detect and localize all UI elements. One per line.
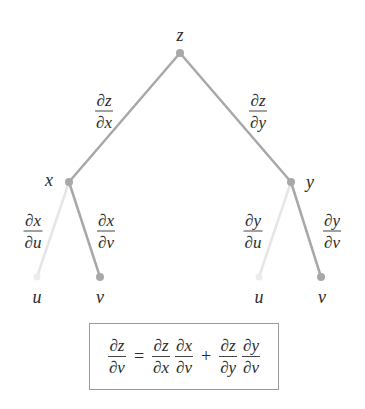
branch-z-x xyxy=(69,53,180,182)
branches xyxy=(37,53,321,277)
label-u-left: u xyxy=(33,288,42,306)
nodes xyxy=(34,49,326,281)
formula-lhs: ∂z∂v xyxy=(108,336,126,377)
label-z: z xyxy=(176,26,183,44)
equals-sign: = xyxy=(131,346,147,367)
formula-term1-a: ∂z∂x xyxy=(152,336,170,377)
edge-label-dx-dv: ∂x∂v xyxy=(97,211,115,252)
branch-z-y xyxy=(180,53,291,182)
edge-label-dy-dv: ∂y∂v xyxy=(323,211,341,252)
plus-sign: + xyxy=(198,346,214,367)
label-u-right: u xyxy=(255,288,264,306)
label-x: x xyxy=(45,171,53,189)
node-y xyxy=(287,178,295,186)
node-v-right xyxy=(317,273,325,281)
node-z xyxy=(176,49,184,57)
node-u-left xyxy=(34,274,41,281)
node-x xyxy=(65,178,73,186)
node-u-right xyxy=(256,274,263,281)
branch-x-v xyxy=(69,182,100,277)
label-v-right: v xyxy=(318,288,326,306)
formula-term2-a: ∂z∂y xyxy=(219,336,237,377)
edge-label-dz-dy: ∂z∂y xyxy=(249,91,267,132)
chain-rule-formula: ∂z∂v = ∂z∂x ∂x∂v + ∂z∂y ∂y∂v xyxy=(89,323,279,390)
branch-y-v xyxy=(291,182,321,277)
label-v-left: v xyxy=(96,288,104,306)
formula-term2-b: ∂y∂v xyxy=(242,336,260,377)
formula-term1-b: ∂x∂v xyxy=(175,336,193,377)
label-y: y xyxy=(306,173,314,191)
edge-label-dy-du: ∂y∂u xyxy=(244,211,263,252)
node-v-left xyxy=(96,273,104,281)
edge-label-dz-dx: ∂z∂x xyxy=(95,91,113,132)
branch-y-u xyxy=(259,182,291,277)
edge-label-dx-du: ∂x∂u xyxy=(24,211,43,252)
